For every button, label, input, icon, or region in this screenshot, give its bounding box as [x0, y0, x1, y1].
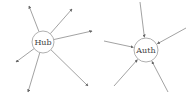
hub-outgoing-arrow [51, 50, 88, 86]
auth-label: Auth [135, 46, 155, 55]
hub-outgoing-arrow [50, 9, 72, 34]
hub-outgoing-arrow [16, 49, 34, 62]
diagram-canvas: Hub Auth [0, 0, 194, 100]
hub-outgoing-arrow [54, 31, 92, 40]
hub-outgoing-arrow [29, 6, 39, 32]
node-auth[interactable]: Auth [134, 38, 158, 62]
auth-incoming-arrow [104, 41, 133, 47]
auth-incoming-arrow [114, 60, 137, 86]
auth-incoming-arrow [157, 28, 186, 44]
auth-incoming-arrow [140, 2, 144, 37]
auth-incoming-arrow [152, 62, 168, 92]
node-hub[interactable]: Hub [32, 31, 54, 53]
hub-label: Hub [34, 38, 51, 47]
hub-outgoing-arrow [28, 53, 40, 92]
